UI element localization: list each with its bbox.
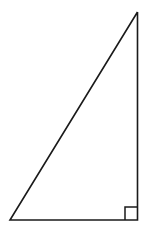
- diagram-background: [0, 0, 153, 238]
- geometry-figure-canvas: [0, 0, 153, 238]
- right-triangle-diagram: [0, 0, 153, 238]
